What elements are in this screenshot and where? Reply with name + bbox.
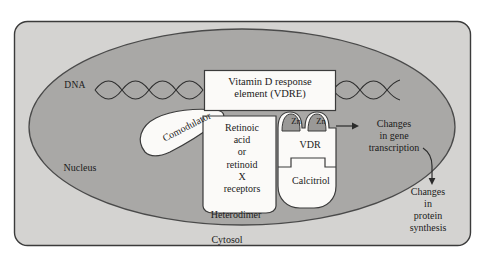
rxr-receptor-shape [203, 116, 276, 213]
diagram-graphics [0, 0, 485, 267]
figure-canvas: DNA Nucleus Cytosol Heterodimer Vitamin … [0, 0, 485, 267]
vdre-box-shape [205, 71, 336, 111]
